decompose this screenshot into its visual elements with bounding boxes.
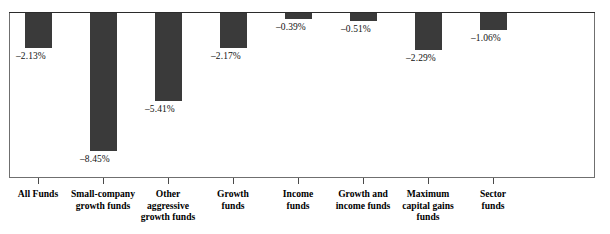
x-axis-label-line: growth funds	[141, 211, 195, 222]
value-label: –2.17%	[211, 51, 241, 61]
x-axis-tick	[428, 178, 429, 184]
x-axis-tick	[363, 178, 364, 184]
value-label: –0.39%	[276, 22, 306, 32]
bar-sector-funds	[480, 13, 507, 30]
bar-income-funds	[285, 13, 312, 19]
x-axis-label-line: funds	[222, 200, 245, 211]
bar-growth-funds	[220, 13, 247, 48]
bar-small-company-growth-funds	[90, 13, 117, 151]
x-axis-tick	[298, 178, 299, 184]
bar-other-aggressive-growth-funds	[155, 13, 182, 101]
x-axis-tick	[233, 178, 234, 184]
x-axis-tick	[168, 178, 169, 184]
bar-chart-figure: –2.13% –8.45% –5.41% –2.17% –0.39% –0.51…	[0, 0, 610, 234]
bar-maximum-capital-gains-funds	[415, 13, 442, 50]
x-axis-label-line: funds	[287, 200, 310, 211]
value-label: –8.45%	[80, 154, 110, 164]
x-axis-tick	[103, 178, 104, 184]
x-axis-label-line: Other	[156, 188, 181, 199]
x-axis-label-line: funds	[417, 211, 440, 222]
value-label: –2.13%	[16, 51, 46, 61]
value-label: –2.29%	[406, 53, 436, 63]
value-label: –5.41%	[145, 104, 175, 114]
x-axis-tick	[38, 178, 39, 184]
x-axis-label-line: Sector	[480, 188, 506, 199]
value-label: –1.06%	[471, 33, 501, 43]
bar-all-funds	[25, 13, 52, 48]
x-axis-label-line: funds	[482, 200, 505, 211]
x-axis-tick	[493, 178, 494, 184]
x-axis-label-sector-funds: Sectorfunds	[438, 188, 548, 211]
bar-growth-and-income-funds	[350, 13, 377, 21]
value-label: –0.51%	[341, 24, 371, 34]
